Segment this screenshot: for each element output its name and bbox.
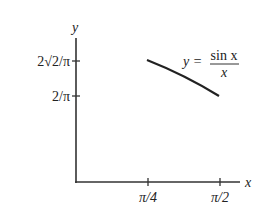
x-tick-label-pi-over-4: π/4 bbox=[139, 190, 157, 205]
x-axis-label: x bbox=[244, 175, 252, 190]
y-tick-label-2-over-pi: 2/π bbox=[52, 89, 70, 104]
y-tick-label-2sqrt2-over-pi: 2√2/π bbox=[37, 54, 70, 69]
y-axis-label: y bbox=[70, 20, 79, 35]
chart: y x 2√2/π 2/π π/4 π/2 y = sin x x bbox=[0, 0, 269, 212]
x-tick-label-pi-over-2: π/2 bbox=[211, 190, 229, 205]
curve-label-lhs: y = bbox=[181, 54, 202, 69]
curve-label-denominator: x bbox=[220, 65, 228, 80]
curve-label-numerator: sin x bbox=[211, 48, 238, 63]
